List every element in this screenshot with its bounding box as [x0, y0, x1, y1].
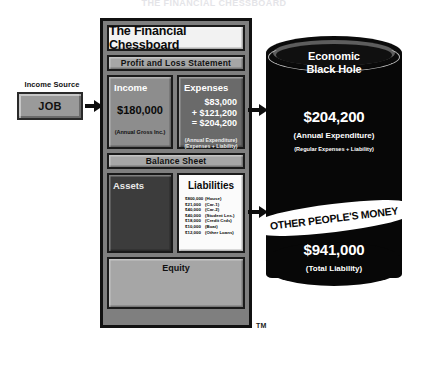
liabilities-list: $800,000(House)$21,000(Car-1)$40,000(Car…	[182, 196, 240, 235]
income-box: Income $180,000 (Annual Gross Inc.)	[107, 75, 173, 149]
income-value: $180,000	[117, 104, 163, 116]
liability-item: $12,000(Other Loans)	[185, 230, 240, 236]
economic-black-hole: Economic Black Hole $204,200 (Annual Exp…	[266, 36, 402, 292]
section-balance-sheet: Balance Sheet	[107, 153, 245, 169]
expenses-lines: $83,000 + $121,200 = $204,200	[182, 97, 240, 129]
expenses-note-2: (Expenses + Liability)	[184, 143, 237, 150]
panel-title: The Financial Chessboard	[107, 25, 245, 51]
job-box: JOB	[17, 92, 83, 120]
balance-sheet-row: Assets Liabilities $800,000(House)$21,00…	[107, 173, 245, 253]
annual-expenditure-group: $204,200 (Annual Expenditure) (Regular E…	[266, 108, 402, 152]
profit-and-loss-label: Profit and Loss Statement	[121, 58, 231, 68]
financial-chessboard-panel: The Financial Chessboard Profit and Loss…	[100, 18, 252, 328]
panel-title-text: The Financial Chessboard	[109, 24, 243, 52]
liabilities-title: Liabilities	[188, 180, 234, 191]
expenses-line-2: + $121,200	[182, 108, 237, 119]
liability-name: (Other Loans)	[205, 230, 234, 236]
black-hole-title-line2: Black Hole	[266, 63, 402, 76]
income-note: (Annual Gross Inc.)	[115, 129, 166, 135]
assets-box: Assets	[107, 173, 173, 253]
equity-label: Equity	[162, 263, 190, 273]
profit-loss-row: Income $180,000 (Annual Gross Inc.) Expe…	[107, 75, 245, 149]
expenses-notes: (Annual Expenditure) (Expenses + Liabili…	[184, 137, 237, 150]
expenses-title: Expenses	[184, 82, 228, 93]
income-title: Income	[114, 82, 147, 93]
annual-expenditure-value: $204,200	[266, 108, 402, 125]
annual-expenditure-sub1: (Annual Expenditure)	[266, 131, 402, 140]
expenses-line-3: = $204,200	[182, 118, 237, 129]
black-hole-title-line1: Economic	[266, 50, 402, 63]
diagram-canvas: THE FINANCIAL CHESSBOARD Income Source J…	[0, 0, 428, 366]
equity-box: Equity	[107, 257, 245, 309]
liability-amount: $12,000	[185, 230, 205, 236]
trademark-mark: TM	[256, 322, 267, 329]
total-liability-value: $941,000	[266, 241, 402, 258]
balance-sheet-label: Balance Sheet	[146, 156, 207, 166]
annual-expenditure-sub2: (Regular Expenses + Liability)	[266, 146, 402, 152]
total-liability-sub1: (Total Liability)	[266, 264, 402, 273]
expenses-line-1: $83,000	[182, 97, 237, 108]
page-heading: THE FINANCIAL CHESSBOARD	[0, 0, 428, 8]
income-source-label: Income Source	[9, 80, 95, 89]
section-profit-and-loss: Profit and Loss Statement	[107, 55, 245, 71]
expenses-box: Expenses $83,000 + $121,200 = $204,200 (…	[177, 75, 245, 149]
assets-title: Assets	[113, 180, 167, 191]
total-liability-group: $941,000 (Total Liability)	[266, 241, 402, 273]
black-hole-title: Economic Black Hole	[266, 50, 402, 76]
job-box-label: JOB	[38, 100, 62, 112]
liabilities-box: Liabilities $800,000(House)$21,000(Car-1…	[177, 173, 245, 253]
